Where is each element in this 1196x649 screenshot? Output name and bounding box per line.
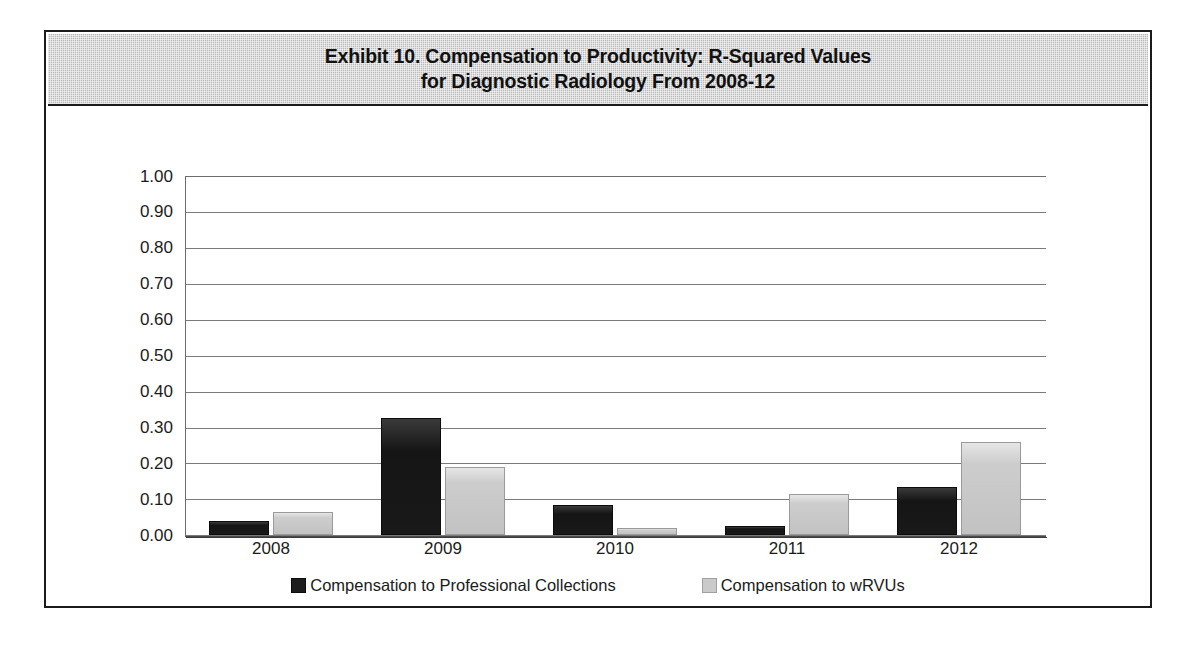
gridline — [186, 284, 1046, 285]
chart-canvas: 1.000.900.800.700.600.500.400.300.200.10… — [46, 106, 1150, 606]
gridline — [186, 535, 1046, 536]
gridline — [186, 463, 1046, 464]
bar-2011-series-1[interactable] — [725, 526, 785, 535]
bar-2012-series-2[interactable] — [961, 442, 1021, 535]
x-axis-baseline — [186, 537, 1047, 538]
plot-area — [185, 176, 1046, 537]
bar-2012-series-1[interactable] — [897, 487, 957, 535]
y-axis-tick-label: 0.70 — [65, 275, 185, 292]
x-axis-tick-label: 2008 — [185, 539, 357, 559]
y-axis-tick-labels: 1.000.900.800.700.600.500.400.300.200.10… — [46, 176, 185, 535]
y-axis-tick-label: 0.80 — [65, 239, 185, 256]
y-axis-tick-label: 0.10 — [65, 491, 185, 508]
y-axis-tick-label: 0.50 — [65, 347, 185, 364]
bar-2008-series-2[interactable] — [273, 512, 333, 535]
dark-square-marker-icon — [291, 578, 306, 593]
exhibit-frame: Exhibit 10. Compensation to Productivity… — [44, 30, 1152, 608]
legend-entry-1[interactable]: Compensation to Professional Collections — [291, 576, 615, 595]
y-axis-tick-label: 1.00 — [65, 168, 185, 185]
x-axis-tick-label: 2012 — [873, 539, 1045, 559]
x-axis-tick-labels: 20082009201020112012 — [185, 539, 1045, 559]
gridline — [186, 212, 1046, 213]
gridline — [186, 392, 1046, 393]
gridline — [186, 248, 1046, 249]
chart-legend: Compensation to Professional Collections… — [46, 576, 1150, 595]
x-axis-tick-label: 2011 — [701, 539, 873, 559]
light-square-marker-icon — [702, 578, 717, 593]
legend-label: Compensation to wRVUs — [721, 576, 905, 595]
gridline — [186, 320, 1046, 321]
exhibit-title-line-2: for Diagnostic Radiology From 2008-12 — [421, 69, 776, 94]
y-axis-tick-label: 0.60 — [65, 311, 185, 328]
bar-2008-series-1[interactable] — [209, 521, 269, 535]
exhibit-title-line-1: Exhibit 10. Compensation to Productivity… — [325, 44, 871, 69]
bar-2010-series-1[interactable] — [553, 505, 613, 536]
y-axis-tick-label: 0.40 — [65, 383, 185, 400]
bar-2009-series-2[interactable] — [445, 467, 505, 535]
legend-entry-2[interactable]: Compensation to wRVUs — [702, 576, 905, 595]
y-axis-tick-label: 0.30 — [65, 419, 185, 436]
bar-2011-series-2[interactable] — [789, 494, 849, 535]
gridline — [186, 356, 1046, 357]
x-axis-tick-label: 2010 — [529, 539, 701, 559]
x-axis-tick-label: 2009 — [357, 539, 529, 559]
legend-label: Compensation to Professional Collections — [310, 576, 615, 595]
gridline — [186, 428, 1046, 429]
bar-2009-series-1[interactable] — [381, 418, 441, 535]
y-axis-tick-label: 0.20 — [65, 455, 185, 472]
y-axis-tick-label: 0.00 — [65, 527, 185, 544]
y-axis-tick-label: 0.90 — [65, 203, 185, 220]
exhibit-title-banner: Exhibit 10. Compensation to Productivity… — [48, 34, 1148, 106]
bar-2010-series-2[interactable] — [617, 528, 677, 535]
